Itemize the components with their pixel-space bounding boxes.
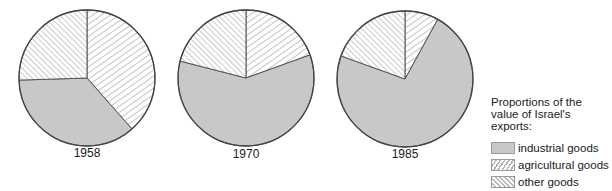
slice-other-goods — [19, 10, 87, 80]
year-label-1958: 1958 — [57, 146, 117, 160]
industrial-swatch-icon — [491, 142, 515, 154]
legend-item-other: other goods — [491, 173, 612, 190]
pie-1970 — [178, 10, 314, 146]
legend-label: agricultural goods — [518, 159, 609, 171]
legend-label: industrial goods — [518, 142, 599, 154]
legend-title: Proportions of the value of Israel's exp… — [491, 96, 612, 132]
pie-1958 — [19, 10, 155, 146]
year-label-1985: 1985 — [375, 147, 435, 161]
legend-label: other goods — [518, 176, 579, 188]
legend: Proportions of the value of Israel's exp… — [491, 96, 612, 190]
year-label-1970: 1970 — [216, 147, 276, 161]
legend-item-agricultural: agricultural goods — [491, 156, 612, 173]
agricultural-swatch-icon — [491, 159, 515, 171]
other-swatch-icon — [491, 176, 515, 188]
pie-1985 — [337, 11, 473, 147]
legend-item-industrial: industrial goods — [491, 139, 612, 156]
